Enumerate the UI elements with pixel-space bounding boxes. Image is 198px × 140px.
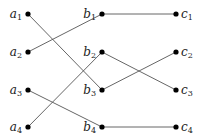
label-b1: b1 (83, 7, 96, 22)
label-a4: a4 (10, 120, 22, 135)
labels-group: a1a2a3a4b1b2b3b4c1c2c3c4 (10, 7, 193, 135)
label-c1: c1 (181, 7, 193, 22)
node-a2 (25, 49, 30, 54)
node-a1 (25, 11, 30, 16)
node-c1 (173, 11, 178, 16)
node-a4 (25, 124, 30, 129)
node-c4 (173, 124, 178, 129)
edges-group (28, 14, 176, 127)
label-b4: b4 (83, 120, 96, 135)
node-b3 (99, 87, 104, 92)
node-a3 (25, 87, 30, 92)
bipartite-diagram: a1a2a3a4b1b2b3b4c1c2c3c4 (0, 0, 198, 140)
node-b1 (99, 11, 104, 16)
label-a2: a2 (10, 45, 22, 60)
nodes-group (25, 11, 178, 129)
label-c3: c3 (181, 83, 193, 98)
label-b3: b3 (83, 83, 96, 98)
label-b2: b2 (83, 45, 96, 60)
node-b4 (99, 124, 104, 129)
node-b2 (99, 49, 104, 54)
label-a1: a1 (10, 7, 22, 22)
node-c3 (173, 87, 178, 92)
label-c4: c4 (181, 120, 193, 135)
node-c2 (173, 49, 178, 54)
label-c2: c2 (181, 45, 193, 60)
label-a3: a3 (10, 83, 22, 98)
